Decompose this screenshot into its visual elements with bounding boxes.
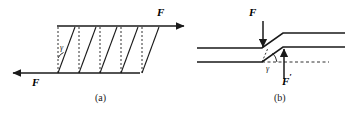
panel-b-shear-angle-label: γ <box>266 65 269 73</box>
shear-stress-figure: F F γ (a) F F′ γ (b) <box>0 0 350 114</box>
figure-drawing <box>0 0 350 114</box>
panel-b-upper-surface <box>197 33 345 48</box>
panel-b-force-bottom-prime: ′ <box>289 72 292 82</box>
panel-a-drawing <box>13 26 184 73</box>
panel-a-caption: (a) <box>95 93 106 103</box>
panel-a-force-bottom-label: F <box>32 77 39 88</box>
panel-a-force-top-label: F <box>157 7 164 18</box>
panel-a-angle-arc <box>58 53 64 59</box>
panel-b-angle-arc <box>273 53 278 62</box>
panel-b-caption: (b) <box>274 93 286 103</box>
panel-b-drawing <box>197 21 345 79</box>
panel-b-lower-surface <box>197 47 345 62</box>
panel-b-force-bottom-label: F′ <box>282 73 292 87</box>
panel-a-shear-angle-label: γ <box>60 44 63 52</box>
panel-a-shear-lines <box>58 27 159 73</box>
panel-b-force-top-label: F <box>249 7 256 18</box>
